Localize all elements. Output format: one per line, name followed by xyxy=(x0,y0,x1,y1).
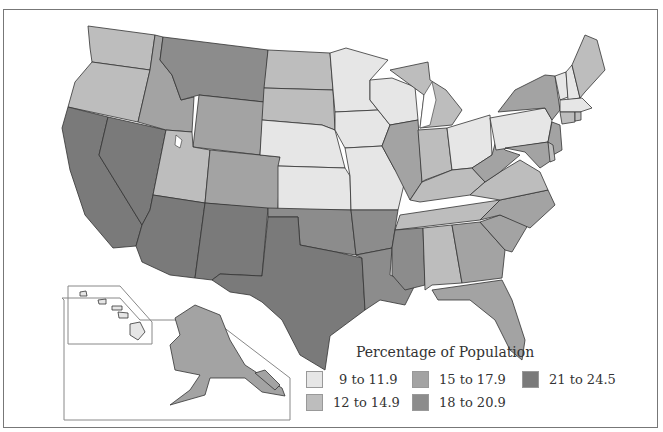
map-legend: Percentage of Population 9 to 11.9 12 to… xyxy=(300,340,660,430)
state-ri xyxy=(575,112,581,121)
state-ak-group xyxy=(170,305,285,405)
legend-swatch xyxy=(412,371,429,388)
state-ks xyxy=(278,166,351,210)
state-nd xyxy=(264,50,333,90)
legend-item-21-24: 21 to 24.5 xyxy=(522,371,616,388)
state-nm xyxy=(195,203,268,280)
state-wy xyxy=(193,95,264,155)
legend-item-12-14: 12 to 14.9 xyxy=(306,394,400,411)
legend-swatch xyxy=(306,371,323,388)
state-hi xyxy=(130,322,145,340)
state-ma xyxy=(560,98,592,112)
legend-swatch xyxy=(306,394,323,411)
state-ms xyxy=(392,228,425,290)
legend-item-18-20: 18 to 20.9 xyxy=(412,394,506,411)
legend-swatch xyxy=(412,394,429,411)
legend-title: Percentage of Population xyxy=(356,344,534,360)
state-co xyxy=(205,150,280,210)
state-ct xyxy=(560,112,575,124)
legend-item-9-11: 9 to 11.9 xyxy=(306,371,398,388)
legend-item-15-17: 15 to 17.9 xyxy=(412,371,506,388)
state-ia xyxy=(335,110,390,148)
state-ak xyxy=(170,305,285,405)
legend-swatch xyxy=(522,371,539,388)
